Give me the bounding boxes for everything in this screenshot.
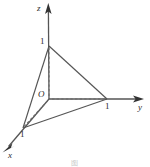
x-axis-label: x (8, 151, 12, 160)
figure-container: z y x O 1 1 1 图 (0, 0, 150, 167)
figure-caption: 图 (0, 160, 150, 167)
y-axis-label: y (138, 103, 142, 112)
edge-z1-to-x1 (23, 46, 49, 128)
z-axis-label: z (37, 4, 41, 13)
coordinate-axes-diagram (0, 0, 150, 167)
x-axis-tick-label: 1 (20, 130, 25, 139)
edge-z1-to-y1 (49, 46, 107, 99)
z-axis-tick-label: 1 (40, 37, 45, 46)
origin-label: O (38, 90, 45, 99)
edge-x1-to-y1 (23, 99, 107, 128)
y-axis-tick-label: 1 (105, 102, 110, 111)
